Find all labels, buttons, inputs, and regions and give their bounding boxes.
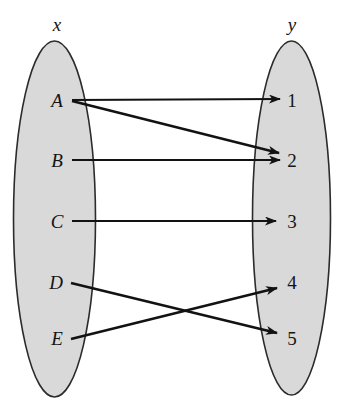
node-label-d: D	[48, 272, 63, 293]
node-label-c: C	[51, 211, 64, 232]
mapping-diagram: x y A B C D E 1 2 3 4 5	[0, 0, 344, 414]
set-label-y: y	[286, 14, 297, 35]
node-label-5: 5	[287, 328, 297, 349]
arrow-d-to-5	[71, 283, 277, 333]
node-label-a: A	[49, 90, 63, 111]
node-label-b: B	[51, 150, 63, 171]
node-label-e: E	[50, 328, 63, 349]
node-label-1: 1	[287, 90, 297, 111]
arrow-e-to-4	[71, 288, 277, 339]
arrow-a-to-1	[72, 99, 280, 100]
node-label-4: 4	[287, 272, 297, 293]
diagram-canvas: x y A B C D E 1 2 3 4 5	[0, 0, 344, 414]
node-label-2: 2	[287, 150, 297, 171]
set-label-x: x	[52, 14, 62, 35]
node-label-3: 3	[287, 211, 297, 232]
arrow-a-to-2	[72, 101, 279, 153]
